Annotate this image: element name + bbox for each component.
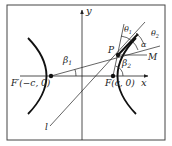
alpha-label: α (141, 40, 147, 49)
right-focus-label: F(c, 0) (104, 78, 135, 88)
figure-frame (7, 5, 165, 140)
point-p-label: P (107, 45, 115, 55)
beta1-label: β1 (62, 55, 72, 66)
y-axis-label: y (85, 5, 92, 16)
point-m-label: M (147, 52, 158, 62)
theta1-label: θ1 (124, 25, 132, 35)
beta2-label: β2 (121, 58, 131, 69)
angle-arc-beta1 (75, 70, 76, 77)
line-l-label: l (45, 122, 48, 132)
hyperbola-reflection-diagram: y x F′(−c, 0) F(c, 0) P M l β1 β2 θ1 θ2 … (0, 0, 172, 146)
theta2-label: θ2 (151, 29, 159, 39)
tangent-line-l (50, 22, 145, 126)
point-p (116, 53, 120, 57)
left-focus-label: F′(−c, 0) (10, 78, 51, 88)
x-axis-label: x (141, 77, 147, 88)
